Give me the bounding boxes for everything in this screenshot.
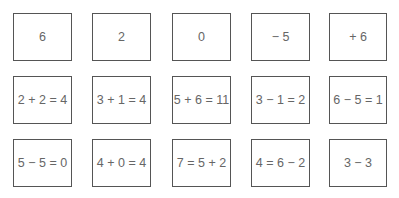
card-text: 7 = 5 + 2 <box>177 156 226 170</box>
card-text: 4 + 0 = 4 <box>97 156 146 170</box>
card-r1-c3: 0 <box>172 13 231 61</box>
card-text: 6 <box>39 30 46 44</box>
card-r3-c3: 7 = 5 + 2 <box>172 139 231 187</box>
card-r1-c4: − 5 <box>251 13 310 61</box>
card-r3-c1: 5 − 5 = 0 <box>13 139 72 187</box>
card-text: 3 + 1 = 4 <box>97 93 146 107</box>
card-text: 0 <box>198 30 205 44</box>
card-r1-c1: 6 <box>13 13 72 61</box>
card-text: 5 − 5 = 0 <box>18 156 67 170</box>
card-text: 5 + 6 = 11 <box>174 93 229 107</box>
card-r2-c5: 6 − 5 = 1 <box>329 76 387 124</box>
card-r2-c2: 3 + 1 = 4 <box>92 76 151 124</box>
card-text: 3 − 3 <box>344 156 372 170</box>
card-r3-c4: 4 = 6 − 2 <box>251 139 310 187</box>
card-text: + 6 <box>349 30 367 44</box>
card-text: 2 + 2 = 4 <box>18 93 67 107</box>
card-text: 2 <box>118 30 125 44</box>
card-text: 6 − 5 = 1 <box>333 93 382 107</box>
card-r2-c3: 5 + 6 = 11 <box>172 76 231 124</box>
card-r3-c5: 3 − 3 <box>329 139 387 187</box>
card-r2-c4: 3 − 1 = 2 <box>251 76 310 124</box>
card-text: − 5 <box>272 30 290 44</box>
card-r1-c5: + 6 <box>329 13 387 61</box>
card-text: 3 − 1 = 2 <box>256 93 305 107</box>
card-r1-c2: 2 <box>92 13 151 61</box>
card-text: 4 = 6 − 2 <box>256 156 305 170</box>
card-r2-c1: 2 + 2 = 4 <box>13 76 72 124</box>
card-r3-c2: 4 + 0 = 4 <box>92 139 151 187</box>
